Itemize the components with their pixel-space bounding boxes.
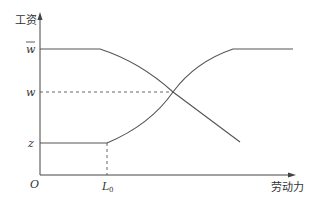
x-axis-arrow-icon: [288, 173, 296, 178]
x-axis-label: 劳动力: [271, 181, 304, 194]
w-bar-label: w: [26, 43, 36, 56]
y-axis-arrow-icon: [38, 12, 43, 20]
wage-labor-diagram: 工资 劳动力 O w w z L 0: [0, 0, 316, 205]
y-axis-label: 工资: [15, 14, 37, 27]
L0-subscript: 0: [109, 186, 113, 194]
z-label: z: [27, 137, 34, 150]
descending-curve: [40, 49, 240, 142]
w-label: w: [26, 86, 36, 99]
origin-label: O: [30, 178, 39, 191]
ascending-curve: [40, 49, 293, 143]
